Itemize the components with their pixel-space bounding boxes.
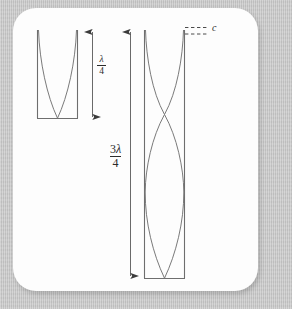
label-quarter-numerator: λ [99,55,103,65]
label-three-quarter-denominator: 4 [113,157,119,169]
short-tube-wave-left [39,30,58,118]
figure-drawing [0,0,292,309]
label-speed-of-sound: c [212,22,216,33]
label-three-quarter-lambda: λ [116,142,121,156]
short-tube [37,30,78,119]
label-three-quarter-wavelength: 3λ 4 [108,142,123,170]
sound-speed-annotation [185,28,208,35]
figure-root: λ 4 3λ 4 c [0,0,292,309]
long-tube [144,30,185,279]
label-quarter-wavelength: λ 4 [95,54,108,77]
short-tube-wave-right [58,30,77,118]
label-three-quarter-numerator: 3λ [110,143,121,155]
label-quarter-denominator: 4 [99,67,104,77]
